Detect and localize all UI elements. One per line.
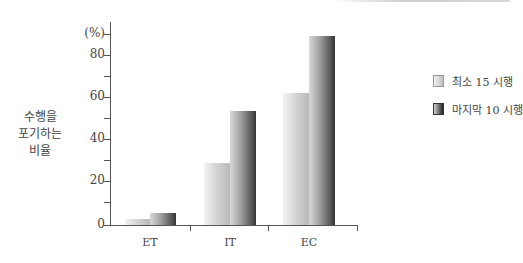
x-tick-1 <box>190 225 191 231</box>
bar-ec-first15 <box>283 93 309 225</box>
x-tick-2 <box>268 225 269 231</box>
legend-swatch-light <box>433 75 444 87</box>
bar-ec-last10 <box>309 36 335 225</box>
legend-item-last10: 마지막 10 시행 <box>433 100 523 118</box>
legend-label: 마지막 10 시행 <box>452 101 523 117</box>
legend-swatch-dark <box>433 103 444 115</box>
y-tick-label-80: 80 <box>90 47 105 61</box>
legend-item-first15: 최소 15 시행 <box>433 72 523 90</box>
y-tick-label-20: 20 <box>90 173 105 187</box>
top-border-line <box>330 0 510 2</box>
y-axis-label: 수행을 포기하는 비율 <box>10 109 70 160</box>
bar-it-last10 <box>230 111 256 225</box>
y-tick-50 <box>104 118 110 119</box>
x-label-et: ET <box>120 236 180 249</box>
y-tick-30 <box>104 160 110 161</box>
bar-et-last10 <box>150 213 176 225</box>
x-axis <box>104 225 358 226</box>
x-label-it: IT <box>200 236 260 249</box>
bar-it-first15 <box>204 163 230 225</box>
y-tick-label-60: 60 <box>90 89 105 103</box>
y-axis <box>110 22 111 226</box>
y-unit-label: (%) <box>84 26 105 40</box>
legend: 최소 15 시행 마지막 10 시행 <box>433 72 523 128</box>
x-label-ec: EC <box>279 236 339 249</box>
legend-label: 최소 15 시행 <box>452 73 513 89</box>
x-tick-3 <box>357 225 358 231</box>
y-tick-70 <box>104 76 110 77</box>
y-tick-label-0: 0 <box>97 217 105 231</box>
bar-et-first15 <box>125 219 150 225</box>
y-tick-label-40: 40 <box>90 131 105 145</box>
y-tick-10 <box>104 202 110 203</box>
